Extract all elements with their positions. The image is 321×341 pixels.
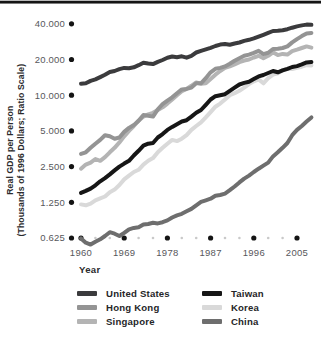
- y-axis-tick-dot: [69, 93, 74, 98]
- x-axis-tick-dot: [165, 235, 170, 240]
- y-axis-tick-label: 1.250: [40, 197, 65, 208]
- x-axis-minor-tick-dot: [137, 237, 140, 240]
- legend-item-united-states: United States: [77, 288, 170, 298]
- series-line-singapore: [81, 46, 311, 168]
- y-axis-tick-dot: [69, 57, 74, 62]
- x-axis-minor-tick-dot: [224, 237, 227, 240]
- legend-swatch-china: [202, 319, 222, 324]
- chart-legend: United States Hong Kong Singapore Taiwan…: [77, 288, 264, 326]
- y-axis-tick-label: 5.000: [40, 125, 65, 136]
- legend-item-taiwan: Taiwan: [202, 288, 264, 298]
- legend-swatch-united-states: [77, 291, 97, 296]
- legend-label-singapore: Singapore: [106, 316, 155, 327]
- legend-label-hong-kong: Hong Kong: [106, 302, 159, 313]
- legend-swatch-taiwan: [202, 291, 222, 296]
- legend-label-taiwan: Taiwan: [231, 288, 264, 299]
- legend-item-singapore: Singapore: [77, 316, 170, 326]
- legend-label-korea: Korea: [231, 302, 259, 313]
- y-axis-tick-dot: [69, 21, 74, 26]
- y-axis-tick-dot: [69, 200, 74, 205]
- x-axis-tick-dot: [294, 235, 299, 240]
- x-axis-minor-tick-dot: [94, 237, 97, 240]
- x-axis-minor-tick-dot: [152, 237, 155, 240]
- y-axis-title-line1: Real GDP per Person: [5, 50, 16, 250]
- y-axis-tick-dot: [69, 235, 74, 240]
- y-axis-tick-label: 40.000: [35, 18, 65, 29]
- x-axis-tick-label: 1987: [199, 247, 221, 258]
- y-axis-tick-label: 0.625: [40, 232, 65, 243]
- y-axis-tick-label: 10.000: [35, 90, 65, 101]
- x-axis-minor-tick-dot: [238, 237, 241, 240]
- y-axis-title: Real GDP per Person (Thousands of 1996 D…: [5, 50, 27, 250]
- y-axis-tick-label: 20.000: [35, 54, 65, 65]
- x-axis-minor-tick-dot: [109, 237, 112, 240]
- x-axis-minor-tick-dot: [181, 237, 184, 240]
- figure-container: 19601969197819871996200540.00020.00010.0…: [0, 0, 321, 341]
- y-axis-title-line2: (Thousands of 1996 Dollars; Ratio Scale): [16, 50, 27, 250]
- x-axis-tick-label: 1960: [70, 247, 92, 258]
- x-axis-minor-tick-dot: [267, 237, 270, 240]
- x-axis-tick-dot: [208, 235, 213, 240]
- legend-label-united-states: United States: [106, 288, 170, 299]
- x-axis-tick-label: 2005: [286, 247, 308, 258]
- x-axis-title: Year: [79, 264, 100, 275]
- legend-swatch-korea: [202, 305, 222, 310]
- x-axis-tick-dot: [251, 235, 256, 240]
- y-axis-tick-dot: [69, 164, 74, 169]
- x-axis-tick-label: 1969: [113, 247, 135, 258]
- series-line-korea: [81, 65, 311, 205]
- legend-item-china: China: [202, 316, 264, 326]
- legend-swatch-singapore: [77, 319, 97, 324]
- y-axis-tick-label: 2.500: [40, 161, 65, 172]
- legend-swatch-hong-kong: [77, 305, 97, 310]
- gdp-ratio-scale-chart: 19601969197819871996200540.00020.00010.0…: [0, 4, 321, 284]
- legend-item-hong-kong: Hong Kong: [77, 302, 170, 312]
- legend-column-right: Taiwan Korea China: [202, 288, 264, 326]
- y-axis-tick-dot: [69, 128, 74, 133]
- x-axis-tick-label: 1978: [156, 247, 178, 258]
- legend-label-china: China: [231, 316, 259, 327]
- legend-item-korea: Korea: [202, 302, 264, 312]
- x-axis-minor-tick-dot: [195, 237, 198, 240]
- x-axis-tick-label: 1996: [243, 247, 265, 258]
- legend-column-left: United States Hong Kong Singapore: [77, 288, 170, 326]
- x-axis-minor-tick-dot: [281, 237, 284, 240]
